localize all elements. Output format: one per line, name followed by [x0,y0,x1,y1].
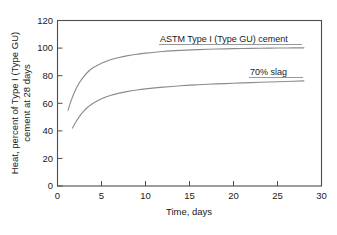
y-tick-label-100: 100 [37,42,53,53]
heat-evolution-line-chart: 0 20 40 60 80 100 120 0 5 10 15 20 25 30 [0,0,337,235]
y-axis-title: Heat, percent of Type I (Type GU) cement… [9,32,32,174]
x-axis-ticks [58,181,322,186]
y-tick-label-40: 40 [42,125,53,136]
annotation-70-percent-slag: 70% slag [250,67,287,77]
y-tick-label-0: 0 [48,180,53,191]
x-tick-label-5: 5 [99,190,104,201]
y-axis-title-line2: cement at 28 days [21,64,32,142]
y-axis-ticks [58,21,63,187]
chart-figure: 0 20 40 60 80 100 120 0 5 10 15 20 25 30 [0,0,337,235]
plot-area-border [58,21,322,187]
y-axis-tick-labels: 0 20 40 60 80 100 120 [37,15,53,192]
x-tick-label-15: 15 [184,190,195,201]
x-tick-label-30: 30 [316,190,327,201]
plot-frame [58,21,322,187]
x-tick-label-20: 20 [228,190,239,201]
y-tick-label-80: 80 [42,70,53,81]
y-tick-label-20: 20 [42,153,53,164]
annotation-astm-type-i-cement: ASTM Type I (Type GU) cement [160,34,288,44]
x-tick-label-0: 0 [55,190,60,201]
y-tick-label-60: 60 [42,98,53,109]
series-annotations: ASTM Type I (Type GU) cement 70% slag [159,34,303,78]
series-line-astm-type-i-cement [68,48,304,110]
y-tick-label-120: 120 [37,15,53,26]
x-axis-title: Time, days [166,206,212,217]
y-axis-title-line1: Heat, percent of Type I (Type GU) [9,32,20,174]
x-tick-label-10: 10 [140,190,151,201]
series-line-70-percent-slag [72,81,303,128]
x-axis-tick-labels: 0 5 10 15 20 25 30 [55,190,327,201]
series-paths [68,48,304,128]
x-tick-label-25: 25 [272,190,283,201]
